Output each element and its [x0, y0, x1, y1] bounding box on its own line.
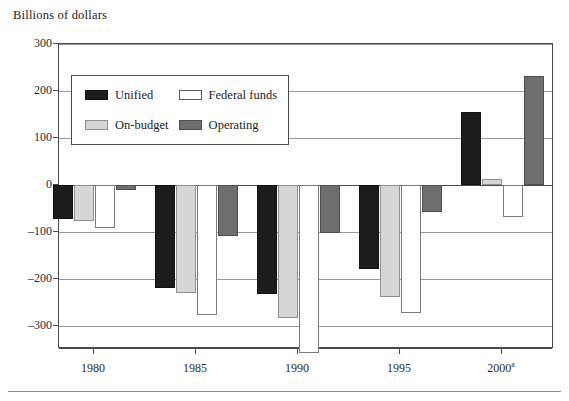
x-tick-mark-1980	[93, 348, 94, 354]
y-tick-label--100: –100	[28, 223, 52, 238]
x-tick-label-1995: 1995	[387, 361, 411, 376]
y-axis-tick-labels: 3002001000–100–200–300	[0, 0, 52, 401]
gridline-300	[59, 44, 552, 45]
y-tick-label-0: 0	[46, 176, 52, 191]
legend-label-onbudget: On-budget	[115, 118, 168, 133]
x-tick-label-1985: 1985	[183, 361, 207, 376]
legend-swatch-onbudget-icon	[85, 120, 108, 130]
bar-federal-1995	[401, 185, 421, 314]
legend-label-federal: Federal funds	[209, 88, 277, 103]
y-tick-label-300: 300	[34, 36, 52, 51]
bar-operating-2000	[524, 76, 544, 185]
bar-operating-1995	[422, 185, 442, 212]
legend-swatch-federal-icon	[179, 90, 202, 100]
y-tick-mark-300	[53, 43, 58, 44]
bar-federal-1985	[197, 185, 217, 315]
bar-federal-2000	[503, 185, 523, 217]
bar-unified-2000	[461, 112, 481, 185]
legend-swatch-operating-icon	[179, 120, 202, 130]
legend-label-unified: Unified	[115, 88, 153, 103]
y-tick-mark-200	[53, 90, 58, 91]
bar-onbudget-1980	[74, 185, 94, 222]
y-tick-mark--300	[53, 325, 58, 326]
x-tick-label-2000: 2000a	[487, 361, 515, 376]
x-tick-label-1980: 1980	[81, 361, 105, 376]
y-tick-mark--100	[53, 231, 58, 232]
y-tick-label--200: –200	[28, 270, 52, 285]
y-tick-label-200: 200	[34, 82, 52, 97]
y-tick-mark--200	[53, 278, 58, 279]
bottom-rule-divider	[8, 391, 561, 392]
y-tick-label-100: 100	[34, 129, 52, 144]
bar-operating-1990	[320, 185, 340, 233]
x-tick-mark-1995	[399, 348, 400, 354]
x-tick-label-1990: 1990	[285, 361, 309, 376]
legend-entry-unified: Unified	[85, 81, 175, 109]
bar-unified-1985	[155, 185, 175, 289]
x-tick-mark-2000	[501, 348, 502, 354]
bar-unified-1995	[359, 185, 379, 269]
y-tick-mark-100	[53, 137, 58, 138]
bar-onbudget-1990	[278, 185, 298, 318]
bar-operating-1980	[116, 185, 136, 191]
legend-entry-onbudget: On-budget	[85, 111, 175, 139]
figure-bar-chart: Billions of dollars 3002001000–100–200–3…	[0, 0, 569, 401]
y-tick-mark-0	[53, 184, 58, 185]
x-tick-mark-1985	[195, 348, 196, 354]
bar-onbudget-1995	[380, 185, 400, 298]
bar-unified-1980	[53, 185, 73, 220]
bar-unified-1990	[257, 185, 277, 294]
bar-federal-1990	[299, 185, 319, 353]
chart-legend: UnifiedFederal fundsOn-budgetOperating	[71, 75, 289, 145]
legend-entry-operating: Operating	[179, 111, 277, 139]
legend-swatch-unified-icon	[85, 90, 108, 100]
bar-onbudget-2000	[482, 179, 502, 185]
legend-label-operating: Operating	[209, 118, 259, 133]
y-tick-label--300: –300	[28, 317, 52, 332]
bar-federal-1980	[95, 185, 115, 228]
bar-onbudget-1985	[176, 185, 196, 293]
x-tick-footnote-marker: a	[511, 360, 515, 369]
legend-entry-federal: Federal funds	[179, 81, 277, 109]
bar-operating-1985	[218, 185, 238, 237]
x-tick-mark-1990	[297, 348, 298, 354]
